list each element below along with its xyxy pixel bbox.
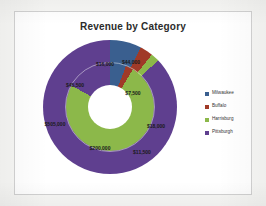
legend-item-harrisburg[interactable]: Harrisburg — [205, 116, 257, 123]
legend-swatch-icon — [205, 118, 209, 122]
outer-label-pittsburgh: $505,000 — [45, 121, 66, 127]
legend-swatch-icon — [205, 105, 209, 109]
legend-item-buffalo[interactable]: Buffalo — [205, 103, 257, 110]
outer-label-harrisburg: $11,500 — [133, 149, 151, 155]
legend-item-milwaukee[interactable]: Milwaukee — [205, 90, 257, 97]
outer-label-milwaukee: $44,000 — [122, 59, 140, 65]
legend-label: Buffalo — [212, 104, 226, 109]
outer-label-buffalo: $18,000 — [147, 123, 165, 129]
inner-label-buffalo: $7,500 — [125, 90, 140, 96]
legend-label: Milwaukee — [212, 91, 234, 96]
chart-title: Revenue by Category — [15, 21, 251, 32]
legend-item-pittsburgh[interactable]: Pittsburgh — [205, 129, 257, 136]
inner-label-pittsburgh: $45,500 — [66, 82, 84, 88]
legend-label: Harrisburg — [212, 117, 233, 122]
legend-swatch-icon — [205, 131, 209, 135]
legend-label: Pittsburgh — [212, 130, 233, 135]
screenshot-root: Revenue by Category $44,000 $18,000 $11,… — [0, 0, 266, 206]
inner-label-milwaukee: $16,000 — [96, 61, 114, 67]
legend-swatch-icon — [205, 92, 209, 96]
inner-label-harrisburg: $200,000 — [90, 145, 111, 151]
doughnut-chart-plot[interactable]: $44,000 $18,000 $11,500 $505,000 $16,000… — [43, 40, 177, 174]
chart-legend: Milwaukee Buffalo Harrisburg Pittsburgh — [205, 90, 257, 142]
chart-frame[interactable]: Revenue by Category $44,000 $18,000 $11,… — [14, 11, 252, 195]
